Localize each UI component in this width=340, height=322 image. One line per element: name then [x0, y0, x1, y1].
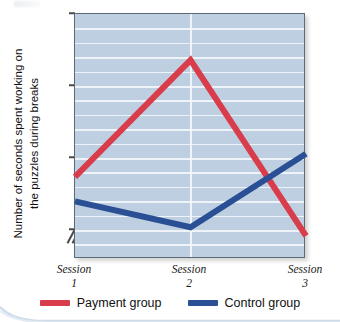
x-tick-label-session-1: Session 1	[57, 262, 92, 291]
x-tick-number: 3	[288, 276, 323, 290]
x-tick-label-session-3: Session 3	[288, 262, 323, 291]
x-tick-word: Session	[172, 262, 207, 276]
series-lines	[75, 14, 306, 259]
line-control-group	[75, 154, 306, 228]
x-tick-word: Session	[288, 262, 323, 276]
page-edge-decoration	[0, 306, 340, 322]
x-tick-number: 1	[57, 276, 92, 290]
x-tick-label-session-2: Session 2	[172, 262, 207, 291]
plot-area	[74, 13, 305, 258]
x-tick-word: Session	[57, 262, 92, 276]
x-tick-number: 2	[172, 276, 207, 290]
y-axis-title: Number of seconds spent working on the p…	[11, 44, 42, 244]
chart-figure: 350 300 250 200 Number of seconds spent …	[0, 0, 340, 322]
